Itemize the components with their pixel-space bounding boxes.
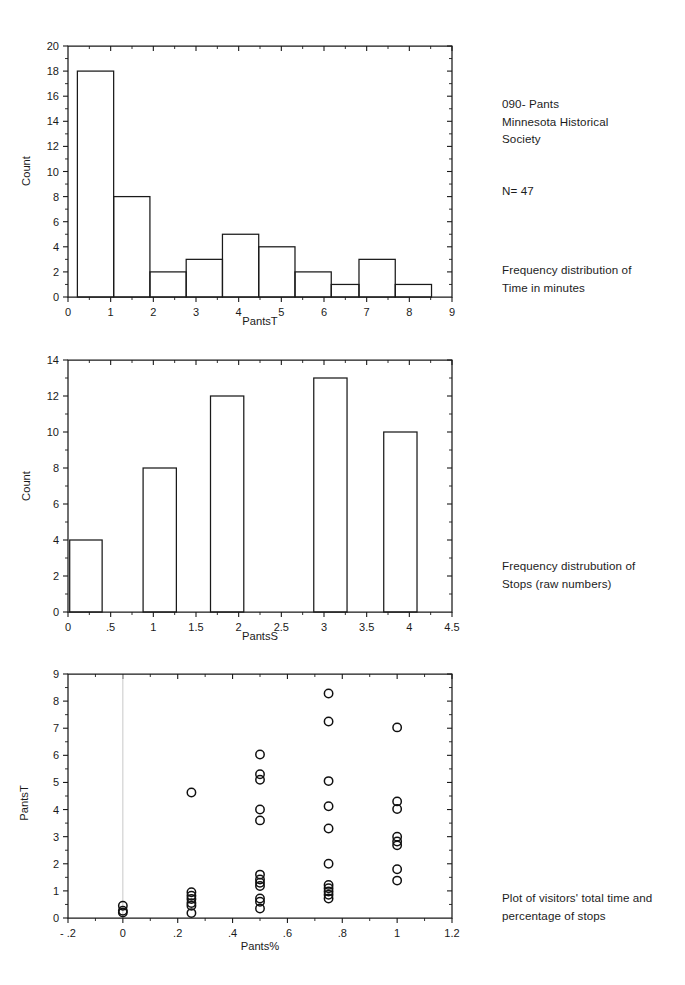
caption-chart-1: Frequency distribution of Time in minute… xyxy=(502,261,682,296)
x-tick-label: .6 xyxy=(283,927,292,939)
x-axis-title: PantsS xyxy=(242,630,278,642)
histogram-bar xyxy=(114,197,150,297)
x-tick-label: - .2 xyxy=(60,927,76,939)
y-axis-tick-labels: 0123456789 xyxy=(53,668,59,924)
x-tick-label: 1.2 xyxy=(444,927,459,939)
y-tick-label: 5 xyxy=(53,776,59,788)
y-tick-label: 6 xyxy=(53,749,59,761)
x-tick-label: 0 xyxy=(120,927,126,939)
y-tick-label: 4 xyxy=(53,241,59,253)
histogram-bar xyxy=(186,259,222,297)
histogram-bar xyxy=(259,247,295,297)
x-tick-label: 7 xyxy=(364,306,370,318)
pantsT-histogram-svg: 02468101214161820 0123456789 Count Pants… xyxy=(0,0,470,340)
histogram-bar xyxy=(77,71,113,297)
y-tick-label: 20 xyxy=(47,40,59,52)
y-tick-label: 8 xyxy=(53,462,59,474)
y-tick-label: 14 xyxy=(47,354,59,366)
y-tick-label: 2 xyxy=(53,570,59,582)
x-axis-title: PantsT xyxy=(242,315,278,327)
pants-scatter-svg: 0123456789 - .20.2.4.6.811.2 PantsT Pant… xyxy=(0,660,470,985)
y-tick-label: 1 xyxy=(53,885,59,897)
scatter-point xyxy=(393,723,401,731)
y-tick-label: 14 xyxy=(47,115,59,127)
caption-chart-3: Plot of visitors' total time and percent… xyxy=(502,889,682,924)
x-axis-tick-labels: - .20.2.4.6.811.2 xyxy=(60,927,460,939)
scatter-point xyxy=(324,860,332,868)
y-tick-label: 7 xyxy=(53,722,59,734)
y-axis-title: Count xyxy=(20,470,32,501)
x-axis-title: Pants% xyxy=(241,940,280,952)
y-tick-label: 8 xyxy=(53,191,59,203)
x-tick-label: 4 xyxy=(236,306,242,318)
histogram-bar xyxy=(211,396,244,612)
y-axis-tick-labels: 02468101214161820 xyxy=(47,40,59,303)
pantsS-histogram-svg: 02468101214 0.511.522.533.544.5 Count Pa… xyxy=(0,340,470,660)
x-tick-label: 1 xyxy=(108,306,114,318)
y-tick-label: 0 xyxy=(53,606,59,618)
histogram-bar xyxy=(150,272,186,297)
axis-ticks xyxy=(63,360,452,617)
figure-page: 02468101214161820 0123456789 Count Pants… xyxy=(0,0,685,985)
chart-panel-pantsS-histogram: 02468101214 0.511.522.533.544.5 Count Pa… xyxy=(0,340,470,660)
frame-rect xyxy=(68,360,452,612)
x-tick-label: .5 xyxy=(106,621,115,633)
x-tick-label: 3 xyxy=(193,306,199,318)
y-tick-label: 6 xyxy=(53,498,59,510)
plot-frame xyxy=(68,360,452,612)
scatter-point xyxy=(256,816,264,824)
x-tick-label: 1 xyxy=(394,927,400,939)
x-tick-label: 0 xyxy=(65,306,71,318)
x-tick-label: 3.5 xyxy=(359,621,374,633)
x-tick-label: 8 xyxy=(406,306,412,318)
histogram-bars xyxy=(70,378,417,612)
scatter-point xyxy=(324,717,332,725)
scatter-point xyxy=(256,750,264,758)
y-tick-label: 2 xyxy=(53,266,59,278)
histogram-bar xyxy=(143,468,176,612)
histogram-bar xyxy=(70,540,102,612)
x-tick-label: 4.5 xyxy=(444,621,459,633)
scatter-point xyxy=(324,777,332,785)
histogram-bar xyxy=(314,378,347,612)
chart-panel-pantsT-histogram: 02468101214161820 0123456789 Count Pants… xyxy=(0,0,470,340)
y-tick-label: 2 xyxy=(53,858,59,870)
x-tick-label: 1 xyxy=(150,621,156,633)
y-tick-label: 0 xyxy=(53,291,59,303)
x-tick-label: 9 xyxy=(449,306,455,318)
x-tick-label: 5 xyxy=(278,306,284,318)
histogram-bar xyxy=(359,259,395,297)
scatter-point xyxy=(187,788,195,796)
sample-size-label: N= 47 xyxy=(502,182,682,200)
y-tick-label: 8 xyxy=(53,695,59,707)
histogram-bar xyxy=(295,272,331,297)
scatter-point xyxy=(324,689,332,697)
y-tick-label: 10 xyxy=(47,166,59,178)
y-tick-label: 9 xyxy=(53,668,59,680)
chart-panel-pants-scatter: 0123456789 - .20.2.4.6.811.2 PantsT Pant… xyxy=(0,660,470,985)
y-tick-label: 10 xyxy=(47,426,59,438)
y-tick-label: 6 xyxy=(53,216,59,228)
x-tick-label: 6 xyxy=(321,306,327,318)
y-tick-label: 18 xyxy=(47,65,59,77)
x-tick-label: 3 xyxy=(321,621,327,633)
caption-chart-2: Frequency distrubution of Stops (raw num… xyxy=(502,557,682,592)
scatter-point xyxy=(256,805,264,813)
x-tick-label: 2 xyxy=(236,621,242,633)
scatter-point xyxy=(256,776,264,784)
x-tick-label: .2 xyxy=(173,927,182,939)
histogram-bars xyxy=(77,71,431,297)
y-tick-label: 4 xyxy=(53,534,59,546)
x-tick-label: 2 xyxy=(150,306,156,318)
scatter-point xyxy=(393,865,401,873)
scatter-point xyxy=(324,802,332,810)
y-axis-title: Count xyxy=(20,155,32,186)
y-tick-label: 4 xyxy=(53,804,59,816)
histogram-bar xyxy=(384,432,417,612)
y-tick-label: 12 xyxy=(47,390,59,402)
axis-ticks xyxy=(63,46,452,302)
scatter-point xyxy=(324,824,332,832)
y-tick-label: 0 xyxy=(53,912,59,924)
scatter-points xyxy=(119,689,402,917)
y-tick-label: 16 xyxy=(47,90,59,102)
